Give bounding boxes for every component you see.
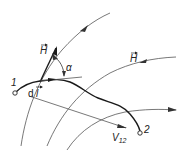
dl-d-label: d: [28, 88, 34, 99]
field-line-3-arrow-icon: [168, 107, 177, 112]
field-line-1: [21, 13, 110, 146]
point-1-marker: [13, 91, 17, 95]
field-line-2-arrow-icon: [139, 59, 147, 63]
dl-l-label: l: [36, 88, 39, 99]
point-1-label: 1: [11, 77, 17, 88]
integration-path: [16, 80, 140, 131]
alpha-label: α: [66, 62, 72, 73]
h-field-label: H: [130, 53, 138, 64]
v12-arrow-icon: [117, 124, 127, 128]
v12-line: [29, 96, 126, 128]
field-line-1-arrow-icon: [80, 25, 88, 32]
dl-vector-arrow-icon: [40, 86, 43, 89]
point-2-label: 2: [143, 124, 150, 135]
h-tangent-label: H: [40, 45, 48, 56]
point-2-marker: [138, 131, 142, 135]
magnetic-voltage-diagram: H α H 1 2 d l V12: [0, 0, 186, 158]
v12-label: V12: [112, 132, 127, 144]
